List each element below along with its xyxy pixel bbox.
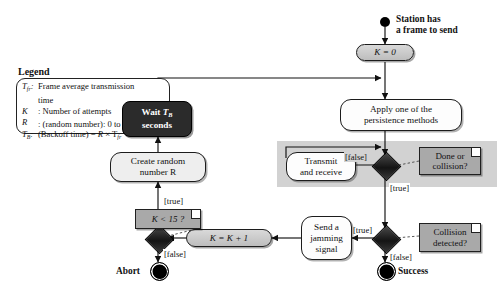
jamming-line1: Send a — [314, 222, 339, 232]
node-jamming-label: Send a jamming signal — [307, 222, 346, 255]
guard-collision-false: [false] — [389, 252, 413, 262]
wait-line2: seconds — [142, 120, 172, 130]
guard-k15-false: [false] — [163, 249, 187, 259]
note-fold-icon — [471, 148, 480, 157]
guard-collision-true: [true] — [352, 225, 373, 235]
jamming-line2: jamming — [310, 233, 343, 243]
create-random-line1: Create random — [131, 156, 185, 166]
note-done-or-collision-label: Done or collision? — [430, 151, 471, 172]
legend-key-k: K — [22, 106, 38, 117]
node-k-init-label: K = 0 — [371, 47, 399, 58]
guard-done-false: [false] — [344, 152, 368, 162]
note-k-less-than-15: K < 15 ? — [135, 209, 201, 229]
guard-done-true: [true] — [389, 183, 410, 193]
legend-key-tfr: Tfr: — [22, 81, 38, 95]
persistence-line1: Apply one of the — [370, 104, 432, 114]
node-k-init[interactable]: K = 0 — [356, 44, 414, 61]
legend-key-r: R — [22, 117, 38, 130]
legend-row-tfr: Tfr: Frame average transmission — [22, 81, 170, 95]
start-caption-line1: Station has — [396, 14, 458, 25]
jamming-line3: signal — [316, 244, 338, 254]
transmit-line1: Transmit — [305, 156, 338, 166]
node-wait-backoff[interactable]: Wait TB seconds — [122, 101, 192, 137]
legend-key-tb: TB: — [22, 129, 38, 143]
node-k-increment[interactable]: K = K + 1 — [186, 229, 272, 247]
node-send-jamming-signal[interactable]: Send a jamming signal — [301, 216, 352, 260]
node-k-increment-label: K = K + 1 — [207, 233, 251, 244]
start-caption: Station has a frame to send — [396, 14, 458, 36]
guard-k15-true: [true] — [163, 196, 184, 206]
legend-desc-tfr: Frame average transmission — [38, 81, 170, 95]
node-apply-persistence-label: Apply one of the persistence methods — [361, 104, 441, 126]
transmit-line2: and receive — [300, 167, 342, 177]
node-transmit-label: Transmit and receive — [297, 156, 345, 178]
persistence-line2: persistence methods — [364, 115, 438, 125]
start-caption-line2: a frame to send — [396, 25, 458, 36]
flowchart-canvas: Legend Tfr: Frame average transmission t… — [0, 0, 497, 288]
note-done-or-collision: Done or collision? — [419, 147, 481, 175]
node-create-random-number[interactable]: Create random number R — [110, 152, 206, 182]
note-fold-icon — [471, 224, 480, 233]
end-node-success — [377, 262, 396, 281]
note-fold-icon — [191, 210, 200, 219]
start-node — [380, 17, 390, 27]
note-collision-detected: Collision detected? — [419, 223, 481, 252]
coll-line1: Collision — [433, 227, 466, 237]
node-create-random-label: Create random number R — [128, 156, 188, 178]
node-apply-persistence[interactable]: Apply one of the persistence methods — [340, 99, 462, 131]
success-label: Success — [398, 266, 428, 277]
done-line2: collision? — [433, 161, 468, 171]
done-line1: Done or — [435, 151, 464, 161]
end-node-abort — [150, 262, 169, 281]
note-k-less-than-15-label: K < 15 ? — [149, 214, 187, 225]
abort-label: Abort — [116, 266, 140, 277]
node-wait-backoff-label: Wait TB seconds — [139, 107, 176, 131]
note-collision-detected-label: Collision detected? — [430, 227, 470, 248]
legend-title: Legend — [18, 66, 50, 78]
create-random-line2: number R — [140, 167, 177, 177]
decision-collision-detected[interactable] — [372, 225, 402, 255]
coll-line2: detected? — [433, 238, 467, 248]
